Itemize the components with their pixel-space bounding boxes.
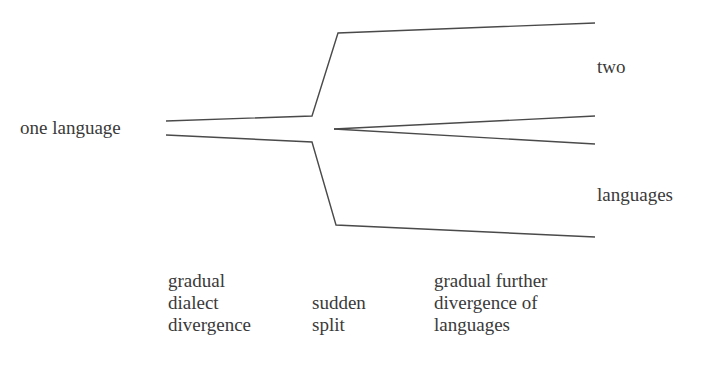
stage-line: sudden [312, 292, 366, 314]
target-label-two: two [597, 56, 626, 78]
stage-line: dialect [168, 292, 251, 314]
stage-line: languages [434, 314, 547, 336]
source-language-label: one language [20, 117, 121, 139]
inner-wedge-upper [334, 116, 595, 129]
inner-wedge-lower [334, 129, 595, 144]
stage-gradual-dialect-divergence: gradual dialect divergence [168, 270, 251, 336]
stage-line: divergence [168, 314, 251, 336]
stage-sudden-split: sudden split [312, 292, 366, 336]
stage-line: gradual [168, 270, 251, 292]
stage-gradual-further-divergence: gradual further divergence of languages [434, 270, 547, 336]
lower-outer-branch [166, 135, 595, 237]
stage-line: divergence of [434, 292, 547, 314]
stage-line: split [312, 314, 366, 336]
upper-outer-branch [166, 23, 595, 121]
stage-line: gradual further [434, 270, 547, 292]
target-label-languages: languages [597, 184, 673, 206]
